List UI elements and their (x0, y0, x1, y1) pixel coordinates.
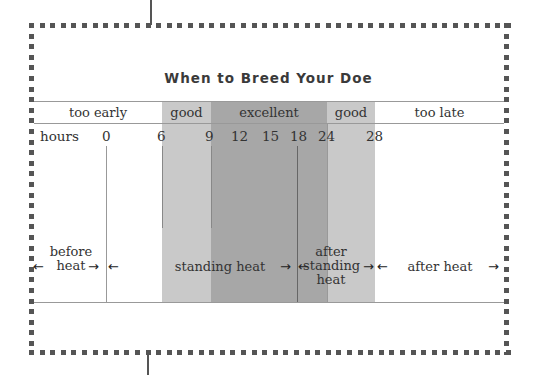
arrow-left-icon: ← (298, 260, 309, 274)
marker-0h (106, 146, 107, 302)
tick-9: 9 (205, 128, 214, 144)
zone-good-early: good (162, 103, 211, 123)
marker-9h (211, 146, 212, 228)
tick-12: 12 (231, 128, 248, 144)
zone-good-late: good (327, 103, 375, 123)
phase-after-standing-heat: after standing heat (303, 245, 359, 287)
axis-label-hours: hours (40, 128, 79, 144)
tick-15: 15 (262, 128, 279, 144)
tick-18: 18 (290, 128, 307, 144)
arrow-left-icon: ← (108, 260, 119, 274)
phase-before-heat-line1: before (46, 245, 96, 259)
top-connector-line (150, 0, 152, 25)
bottom-connector-line (147, 352, 149, 375)
phase-standing-heat: standing heat (150, 260, 290, 274)
arrow-right-icon: → (488, 260, 499, 274)
header-top-rule (34, 101, 504, 102)
phase-after-standing-line2: standing (303, 259, 359, 273)
tick-6: 6 (157, 128, 166, 144)
marker-6h (162, 146, 163, 228)
zone-too-early: too early (34, 103, 162, 123)
chart-title: When to Breed Your Doe (30, 70, 507, 86)
zone-excellent: excellent (211, 103, 327, 123)
arrow-left-icon: ← (33, 260, 44, 274)
tick-0: 0 (102, 128, 111, 144)
tick-28: 28 (366, 128, 383, 144)
arrow-right-icon: → (88, 260, 99, 274)
bottom-rule (34, 302, 504, 303)
phase-after-heat: after heat (390, 260, 490, 274)
phase-after-standing-line1: after (303, 245, 359, 259)
arrow-left-icon: ← (377, 260, 388, 274)
arrow-right-icon: → (280, 260, 291, 274)
marker-18h (297, 146, 298, 302)
zone-too-late: too late (375, 103, 504, 123)
arrow-right-icon: → (363, 260, 374, 274)
header-bottom-rule (34, 123, 504, 124)
phase-after-standing-line3: heat (303, 273, 359, 287)
tick-24: 24 (318, 128, 335, 144)
